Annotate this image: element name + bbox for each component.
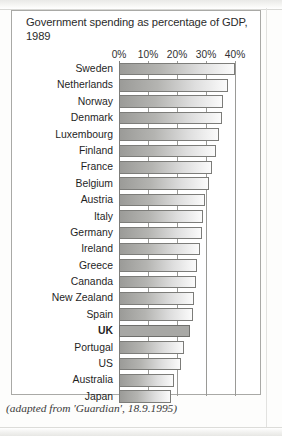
category-label-germany: Germany — [12, 225, 113, 241]
category-label-sweden: Sweden — [12, 61, 113, 77]
category-label-italy: Italy — [12, 209, 113, 225]
category-label-greece: Greece — [12, 258, 113, 274]
bar-row: Finland — [12, 143, 262, 159]
bar-row: Sweden — [12, 61, 262, 77]
bar-austria — [119, 194, 205, 207]
bar-italy — [119, 210, 203, 223]
bar-row: Austria — [12, 192, 262, 208]
bar-us — [119, 358, 181, 371]
bar-germany — [119, 227, 202, 240]
bar-portugal — [119, 341, 184, 354]
bar-row: Greece — [12, 258, 262, 274]
figure-caption: (adapted from 'Guardian', 18.9.1995) — [6, 402, 276, 414]
bar-france — [119, 161, 212, 174]
x-axis-tick-labels: 0%10%20%30%40% — [12, 49, 262, 61]
bar-row: Denmark — [12, 110, 262, 126]
bar-sweden — [119, 63, 235, 76]
bar-cananda — [119, 276, 196, 289]
category-label-luxembourg: Luxembourg — [12, 127, 113, 143]
category-label-norway: Norway — [12, 94, 113, 110]
bar-row: Portugal — [12, 340, 262, 356]
x-tick-label-40pct: 40% — [225, 49, 245, 60]
bar-denmark — [119, 112, 222, 125]
category-label-netherlands: Netherlands — [12, 77, 113, 93]
chart-container: Government spending as percentage of GDP… — [11, 10, 261, 395]
bar-new-zealand — [119, 292, 194, 305]
category-label-portugal: Portugal — [12, 340, 113, 356]
category-label-finland: Finland — [12, 143, 113, 159]
category-label-uk: UK — [12, 323, 113, 339]
x-tick-label-0pct: 0% — [112, 49, 127, 60]
bar-norway — [119, 95, 223, 108]
category-label-france: France — [12, 159, 113, 175]
plot-area: 0%10%20%30%40% SwedenNetherlandsNorwayDe… — [12, 49, 262, 396]
bar-row: Germany — [12, 225, 262, 241]
bar-row: Australia — [12, 372, 262, 388]
category-label-us: US — [12, 356, 113, 372]
category-label-denmark: Denmark — [12, 110, 113, 126]
x-tick-label-20pct: 20% — [167, 49, 187, 60]
category-label-cananda: Cananda — [12, 274, 113, 290]
x-tick-label-10pct: 10% — [138, 49, 158, 60]
bar-finland — [119, 145, 216, 158]
bar-row: UK — [12, 323, 262, 339]
bar-row: Luxembourg — [12, 127, 262, 143]
bar-row: Belgium — [12, 176, 262, 192]
bar-australia — [119, 374, 174, 387]
bar-spain — [119, 308, 193, 321]
category-label-belgium: Belgium — [12, 176, 113, 192]
bar-row: Ireland — [12, 241, 262, 257]
bar-belgium — [119, 177, 209, 190]
bars-region: SwedenNetherlandsNorwayDenmarkLuxembourg… — [12, 61, 262, 396]
page-scan-bottom-edge — [0, 427, 282, 436]
bar-row: US — [12, 356, 262, 372]
category-label-austria: Austria — [12, 192, 113, 208]
category-label-ireland: Ireland — [12, 241, 113, 257]
category-label-australia: Australia — [12, 372, 113, 388]
category-label-spain: Spain — [12, 307, 113, 323]
chart-title: Government spending as percentage of GDP… — [26, 16, 254, 43]
bar-row: Norway — [12, 94, 262, 110]
bar-greece — [119, 259, 197, 272]
page-scan-right-rule — [266, 8, 267, 428]
category-label-new-zealand: New Zealand — [12, 290, 113, 306]
bar-row: Italy — [12, 209, 262, 225]
bar-row: Cananda — [12, 274, 262, 290]
bar-luxembourg — [119, 128, 219, 141]
page-scan-top-edge — [0, 0, 282, 10]
bar-uk — [119, 325, 190, 338]
bar-row: France — [12, 159, 262, 175]
bar-netherlands — [119, 79, 228, 92]
x-tick-label-30pct: 30% — [196, 49, 216, 60]
bar-ireland — [119, 243, 200, 256]
bar-row: New Zealand — [12, 290, 262, 306]
bar-row: Spain — [12, 307, 262, 323]
bar-row: Netherlands — [12, 77, 262, 93]
